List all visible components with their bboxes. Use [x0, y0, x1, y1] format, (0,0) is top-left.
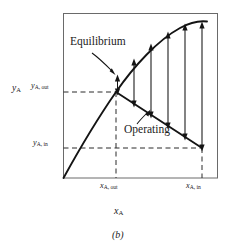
y-axis-tick-label-in: yA, in [33, 139, 48, 148]
figure-caption: (b) [112, 230, 124, 240]
operating-label: Operating [124, 124, 170, 136]
equilibrium-label: Equilibrium [70, 36, 126, 48]
operating-leader-arrow [137, 110, 151, 125]
x-axis-tick-label-out: xA, out [100, 182, 118, 191]
equilibrium-leader-arrow [92, 53, 116, 75]
driving-force-arrow [165, 32, 170, 130]
operating-line [116, 92, 202, 148]
x-axis-title: xA [114, 206, 123, 217]
driving-force-arrow [182, 24, 187, 141]
y-axis-title: yA [12, 84, 21, 94]
x-axis-tick-label-in: xA, in [186, 182, 201, 191]
driving-force-arrow [148, 44, 153, 119]
y-axis-tick-label-out: yA, out [31, 82, 49, 91]
driving-force-arrow [199, 22, 204, 152]
